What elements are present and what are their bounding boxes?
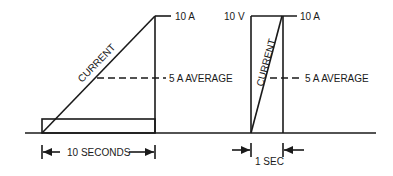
left-current-ramp [42,16,155,133]
current-waveform-diagram: 10 A 5 A AVERAGE CURRENT 10 SECONDS 10 V… [0,0,393,176]
right-dim-arrowhead-r-icon [284,146,293,154]
right-dim-arrowhead-l-icon [241,146,250,154]
right-duration-label: 1 SEC [255,156,284,167]
diagram-canvas: 10 A 5 A AVERAGE CURRENT 10 SECONDS 10 V… [0,0,393,176]
right-voltage-label: 10 V [224,11,245,22]
right-top-label: 10 A [300,11,320,22]
left-average-label: 5 A AVERAGE [169,73,233,84]
left-top-label: 10 A [175,11,195,22]
left-duration-label: 10 SECONDS [67,147,131,158]
right-average-label: 5 A AVERAGE [305,73,369,84]
left-arrowhead-icon [43,148,52,156]
right-current-label: CURRENT [254,37,277,87]
left-voltage-rect [42,119,155,133]
right-arrowhead-icon [145,148,154,156]
